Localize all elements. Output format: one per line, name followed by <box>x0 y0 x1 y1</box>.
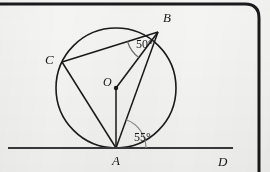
point-label-o: O <box>103 75 112 89</box>
geometry-diagram: A B C O D 50° 55° <box>0 0 270 172</box>
center-point-dot <box>114 86 118 90</box>
point-label-d: D <box>217 154 228 169</box>
geometry-figure-canvas: A B C O D 50° 55° <box>0 0 270 172</box>
angle-label-55: 55° <box>134 130 151 144</box>
angle-label-50: 50° <box>136 37 153 51</box>
paper-background <box>0 0 270 172</box>
point-label-c: C <box>45 52 54 67</box>
point-label-a: A <box>111 153 120 168</box>
point-label-b: B <box>163 10 171 25</box>
